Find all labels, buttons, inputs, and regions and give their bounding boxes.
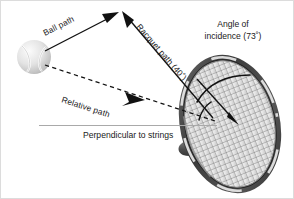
racquet-strings [173,52,288,197]
tennis-ball [17,40,51,74]
angle-of-incidence-label-line1: Angle of [217,19,249,29]
tennis-racquet [166,45,294,199]
racquet-path-label: Racquet path (40˚) [134,22,189,83]
diagram-canvas: Ball path Racquet path (40˚) Relative pa… [1,1,294,199]
perpendicular-to-strings-label: Perpendicular to strings [83,130,173,140]
angle-of-incidence-label-line2: incidence (73˚) [205,31,262,41]
physics-diagram-figure: Ball path Racquet path (40˚) Relative pa… [0,0,294,199]
ball-path-label: Ball path [41,14,76,38]
relative-path-label: Relative path [60,94,111,119]
